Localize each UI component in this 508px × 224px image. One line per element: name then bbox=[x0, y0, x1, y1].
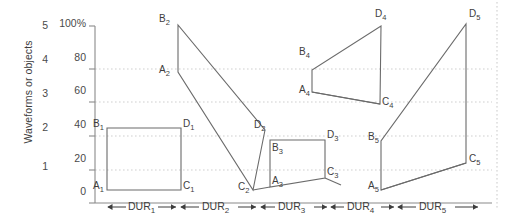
vertex-label-C2: C2 bbox=[238, 181, 249, 195]
vertex-label-A1: A1 bbox=[93, 180, 104, 194]
vertex-label-C1: C1 bbox=[183, 180, 194, 194]
duration-label-3: DUR3 bbox=[278, 200, 305, 215]
vertex-label-D1: D1 bbox=[183, 118, 194, 132]
shape-3-connector-left bbox=[253, 187, 270, 190]
duration-label-4: DUR4 bbox=[347, 200, 374, 215]
shape-5-base bbox=[381, 163, 466, 190]
vertex-label-D5: D5 bbox=[469, 8, 480, 22]
vertex-label-D4: D4 bbox=[375, 8, 386, 22]
duration-label-1: DUR1 bbox=[128, 200, 155, 215]
shape-4-base bbox=[312, 92, 380, 104]
chart-container: Waveforms or objects 5 4 3 2 1 100% 80 6… bbox=[0, 0, 508, 224]
vertex-label-A3: A3 bbox=[272, 175, 283, 189]
shape-4-trapezoid bbox=[312, 26, 381, 104]
duration-label-5: DUR5 bbox=[419, 200, 446, 215]
vertex-label-D2: D2 bbox=[254, 119, 265, 133]
vertex-label-A4: A4 bbox=[299, 84, 310, 98]
vertex-label-B2: B2 bbox=[159, 13, 170, 27]
vertex-label-B3: B3 bbox=[272, 142, 283, 156]
vertex-label-B4: B4 bbox=[299, 46, 310, 60]
duration-label-2: DUR2 bbox=[202, 200, 229, 215]
vertex-label-C3: C3 bbox=[327, 166, 338, 180]
vertex-label-C4: C4 bbox=[382, 96, 393, 110]
shape-2-parallelogram bbox=[178, 25, 265, 190]
vertex-label-A5: A5 bbox=[368, 180, 379, 194]
vertex-label-D3: D3 bbox=[327, 129, 338, 143]
gridlines bbox=[95, 69, 492, 170]
shape-5-quadrilateral bbox=[381, 24, 466, 190]
vertex-label-C5: C5 bbox=[469, 153, 480, 167]
vertex-label-A2: A2 bbox=[159, 64, 170, 78]
y-axis-ticks bbox=[89, 26, 95, 203]
chart-plot-area bbox=[0, 0, 508, 224]
shape-1-rectangle bbox=[107, 128, 181, 190]
vertex-label-B5: B5 bbox=[368, 131, 379, 145]
vertex-label-B1: B1 bbox=[93, 118, 104, 132]
